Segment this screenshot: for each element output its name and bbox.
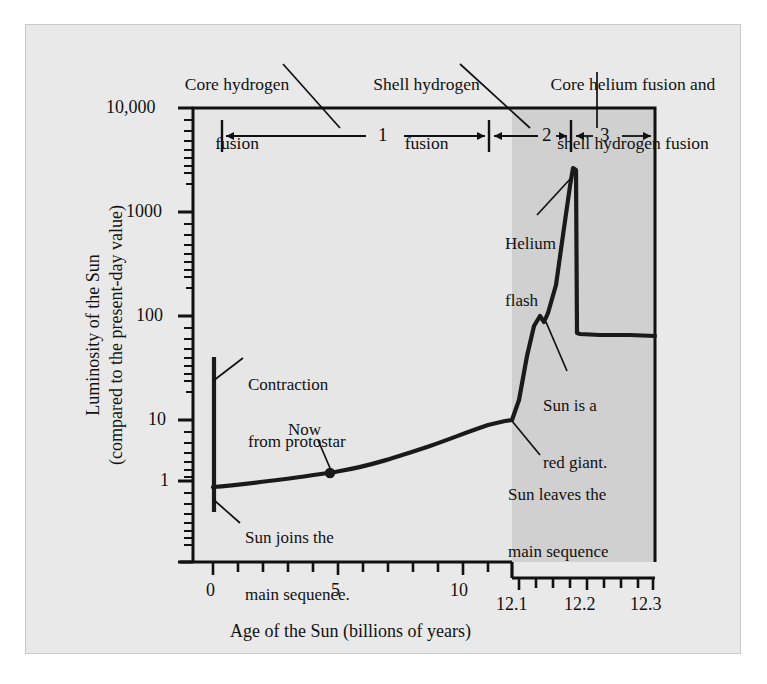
y-tick-label-100: 100 <box>136 305 163 325</box>
annotation-sun-leaves-line2: main sequence <box>508 542 609 561</box>
annotation-red-giant-line1: Sun is a <box>543 396 607 415</box>
annotation-sun-joins-line1: Sun joins the <box>245 528 350 547</box>
annotation-helium-flash-line1: Helium <box>505 234 556 253</box>
annotation-sun-joins-line2: main sequence. <box>245 585 350 604</box>
annotation-helium-flash-line2: flash <box>505 291 556 310</box>
y-tick-label-10: 10 <box>148 409 166 429</box>
y-tick-label-1000: 1000 <box>126 201 162 221</box>
phase-2-label: 2 <box>542 124 552 145</box>
callout-core-hydrogen-fusion-line1: Core hydrogen <box>152 75 322 95</box>
x-tick-label-0: 0 <box>206 580 215 600</box>
x-tick-label-12-3: 12.3 <box>630 594 662 614</box>
annotation-sun-leaves-main-sequence: Sun leaves the main sequence <box>508 447 609 599</box>
callout-core-helium-fusion: Core helium fusion and shell hydrogen fu… <box>508 36 758 193</box>
annotation-now: Now <box>288 420 321 439</box>
annotation-contraction-line1: Contraction <box>248 375 346 394</box>
annotation-sun-leaves-line1: Sun leaves the <box>508 485 609 504</box>
phase-3-label: 3 <box>600 124 610 145</box>
callout-core-helium-fusion-line1: Core helium fusion and <box>508 75 758 95</box>
y-axis-title-line1: Luminosity of the Sun <box>82 170 105 500</box>
annotation-contraction-from-protostar: Contraction from protostar <box>248 337 346 489</box>
callout-shell-hydrogen-fusion: Shell hydrogen fusion <box>344 36 509 193</box>
callout-shell-hydrogen-fusion-line2: fusion <box>344 134 509 154</box>
y-axis-title-line2: (compared to the present-day value) <box>105 170 128 500</box>
y-tick-label-1: 1 <box>160 470 169 490</box>
x-tick-label-10: 10 <box>450 580 468 600</box>
y-tick-label-10000: 10,000 <box>106 97 156 117</box>
annotation-sun-joins-main-sequence: Sun joins the main sequence. <box>245 490 350 642</box>
y-axis-title: Luminosity of the Sun (compared to the p… <box>18 170 82 500</box>
callout-shell-hydrogen-fusion-line1: Shell hydrogen <box>344 75 509 95</box>
phase-1-label: 1 <box>378 124 388 145</box>
annotation-helium-flash: Helium flash <box>505 196 556 348</box>
callout-core-hydrogen-fusion-line2: fusion <box>152 134 322 154</box>
figure-container: Core hydrogen fusion Shell hydrogen fusi… <box>0 0 767 684</box>
callout-core-hydrogen-fusion: Core hydrogen fusion <box>152 36 322 193</box>
